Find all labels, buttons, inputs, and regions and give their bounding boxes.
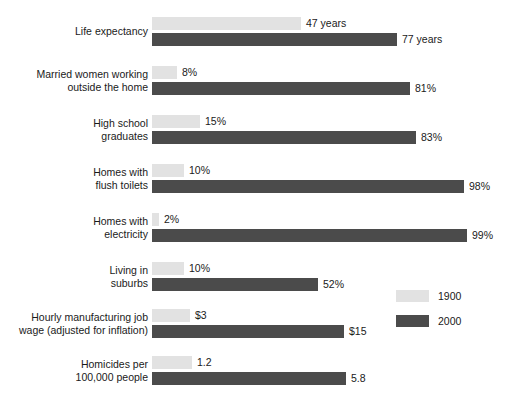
bar-group-2000: 77 years [152,33,442,46]
bar-group-2000: 52% [152,278,344,291]
bars-column: 8% 81% [152,65,524,96]
bar-1900 [152,115,200,128]
bar-group-1900: 10% [152,262,210,275]
legend-swatch-1900 [396,290,429,302]
bar-2000 [152,33,397,46]
bar-value-2000: 5.8 [346,372,366,385]
bar-row: High school graduates 15% 83% [0,114,524,145]
bar-group-1900: 10% [152,164,210,177]
bars-column: 1.2 5.8 [152,355,524,386]
bar-1900 [152,17,301,30]
bar-row: Homes with flush toilets 10% 98% [0,163,524,194]
bar-value-2000: 52% [318,278,344,291]
legend-label-1900: 1900 [429,290,461,302]
row-label: Married women working outside the home [0,68,152,93]
bar-row: Life expectancy 47 years 77 years [0,16,524,47]
bar-group-2000: 99% [152,229,493,242]
bar-value-2000: 83% [416,131,442,144]
row-label: Living in suburbs [0,264,152,289]
legend-label-2000: 2000 [429,315,461,327]
bar-value-1900: 8% [177,66,197,79]
bar-value-2000: 81% [410,82,436,95]
bar-1900 [152,213,159,226]
bar-group-2000: 83% [152,131,442,144]
bar-value-1900: 10% [184,164,210,177]
bar-value-1900: $3 [190,309,207,322]
bars-column: 10% 98% [152,163,524,194]
legend-item-1900: 1900 [396,289,516,302]
bar-group-2000: 98% [152,180,490,193]
bar-2000 [152,82,410,95]
bar-group-2000: $15 [152,325,367,338]
bar-1900 [152,309,190,322]
bar-value-1900: 15% [200,115,226,128]
bar-2000 [152,278,318,291]
bar-value-1900: 1.2 [192,356,212,369]
legend-item-2000: 2000 [396,314,516,327]
bar-group-1900: 47 years [152,17,346,30]
row-label: High school graduates [0,117,152,142]
bars-column: 15% 83% [152,114,524,145]
bar-group-1900: $3 [152,309,207,322]
row-label: Life expectancy [0,25,152,38]
bar-1900 [152,356,192,369]
bar-2000 [152,131,416,144]
bar-2000 [152,372,346,385]
chart-legend: 1900 2000 [396,289,516,339]
row-label: Homicides per 100,000 people [0,358,152,383]
bar-group-1900: 1.2 [152,356,212,369]
grouped-bar-chart: Life expectancy 47 years 77 years Marrie… [0,0,524,396]
bar-value-2000: 99% [467,229,493,242]
bar-1900 [152,262,184,275]
bar-1900 [152,164,184,177]
bar-group-1900: 8% [152,66,197,79]
bar-value-2000: $15 [344,325,367,338]
bar-value-1900: 10% [184,262,210,275]
bar-1900 [152,66,177,79]
bar-value-1900: 2% [159,213,179,226]
bar-group-1900: 15% [152,115,226,128]
bars-column: 10% 52% [152,261,524,292]
bar-group-1900: 2% [152,213,179,226]
bar-group-2000: 5.8 [152,372,366,385]
bar-value-2000: 77 years [397,33,442,46]
bar-row: Married women working outside the home 8… [0,65,524,96]
row-label: Homes with flush toilets [0,166,152,191]
row-label: Homes with electricity [0,215,152,240]
bar-value-2000: 98% [464,180,490,193]
bars-column: 47 years 77 years [152,16,524,47]
bars-column: 2% 99% [152,212,524,243]
bar-group-2000: 81% [152,82,436,95]
bar-2000 [152,229,467,242]
bar-row: Homicides per 100,000 people 1.2 5.8 [0,355,524,386]
bar-2000 [152,180,464,193]
bar-2000 [152,325,344,338]
bar-value-1900: 47 years [301,17,346,30]
bar-row: Homes with electricity 2% 99% [0,212,524,243]
legend-swatch-2000 [396,315,429,327]
bar-row: Living in suburbs 10% 52% [0,261,524,292]
row-label: Hourly manufacturing job wage (adjusted … [0,311,152,336]
